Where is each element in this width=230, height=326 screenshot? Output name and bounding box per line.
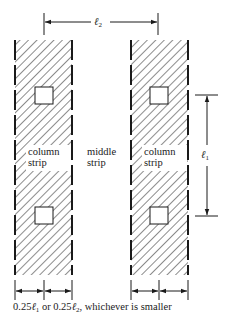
column-square [150, 87, 168, 104]
right-column-strip-label: column strip [143, 146, 177, 168]
left-column-strip-label: column strip [27, 146, 61, 168]
subscript: 2 [98, 21, 102, 29]
subscript: 1 [205, 154, 209, 162]
bottom-dimensions [15, 280, 188, 300]
label-line: strip [87, 157, 116, 168]
l1-label: ℓ1 [200, 149, 210, 164]
column-square [35, 87, 53, 104]
label-line: middle [87, 146, 116, 157]
caption-text: 0.25 [13, 301, 31, 312]
label-line: strip [28, 157, 60, 168]
l2-label: ℓ2 [93, 16, 103, 31]
label-line: column [28, 146, 60, 157]
caption-text: or 0.25 [39, 301, 71, 312]
width-caption: 0.25ℓ1 or 0.25ℓ2, whichever is smaller [13, 301, 172, 314]
middle-strip-label: middle strip [86, 146, 117, 168]
column-square [150, 207, 168, 224]
caption-text: , whichever is smaller [80, 301, 172, 312]
column-square [35, 207, 53, 224]
label-line: column [144, 146, 176, 157]
label-line: strip [144, 157, 176, 168]
